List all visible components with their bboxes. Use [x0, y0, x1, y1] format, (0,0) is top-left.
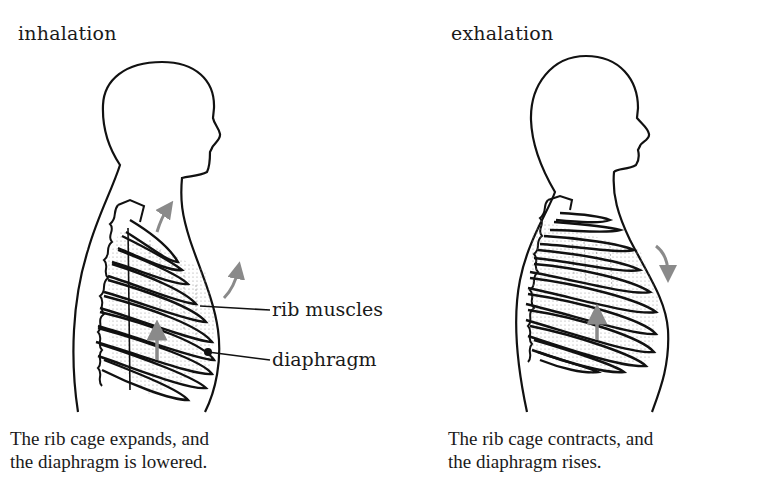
- rib-muscles-label: rib muscles: [272, 298, 383, 320]
- inhalation-caption-line1: The rib cage expands, and: [10, 427, 209, 450]
- diaphragm-leader: [208, 352, 270, 360]
- rib-cage-up-arrow: [157, 208, 168, 232]
- inhalation-figure: [73, 62, 270, 412]
- rib-cage-down-arrow: [656, 246, 668, 274]
- diaphragm-label: diaphragm: [272, 348, 377, 370]
- exhalation-caption-line2: the diaphragm rises.: [448, 450, 653, 473]
- rib-cage-outward-arrow: [224, 270, 238, 298]
- inhalation-caption: The rib cage expands, and the diaphragm …: [10, 427, 209, 473]
- exhalation-caption-line1: The rib cage contracts, and: [448, 427, 653, 450]
- exhalation-figure: [516, 56, 668, 412]
- inhalation-caption-line2: the diaphragm is lowered.: [10, 450, 209, 473]
- exhalation-caption: The rib cage contracts, and the diaphrag…: [448, 427, 653, 473]
- breathing-diagram: [0, 0, 759, 499]
